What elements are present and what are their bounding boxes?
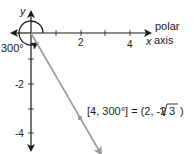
equation-text: [4, 300°] = (2, -2 bbox=[87, 105, 166, 117]
terminal-ray bbox=[31, 33, 101, 154]
angle-label: 300° bbox=[1, 42, 24, 54]
polar-diagram: y x polar axis 2 4 -2 -4 300° [4, 300°] … bbox=[0, 0, 195, 154]
x-tick-4: 4 bbox=[127, 39, 133, 50]
equation-close-paren: ) bbox=[180, 105, 184, 117]
x-axis-label: x bbox=[145, 35, 152, 47]
equation: [4, 300°] = (2, -2 3 ) bbox=[87, 104, 184, 117]
point-marker bbox=[78, 116, 82, 120]
sqrt-argument: 3 bbox=[169, 105, 175, 117]
y-axis-label: y bbox=[19, 5, 27, 17]
polar-axis-label-1: polar bbox=[155, 20, 180, 32]
x-tick-2: 2 bbox=[78, 37, 84, 48]
polar-axis-label-2: axis bbox=[154, 34, 174, 46]
y-tick-neg2: -2 bbox=[15, 79, 24, 90]
y-tick-neg4: -4 bbox=[15, 128, 24, 139]
